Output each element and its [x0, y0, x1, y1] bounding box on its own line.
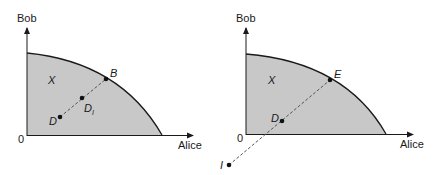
origin-label: 0	[18, 133, 24, 145]
region-label: X	[267, 74, 276, 86]
point-E	[328, 78, 333, 83]
region-label: X	[47, 74, 56, 86]
feasible-region	[27, 53, 162, 135]
label-E: E	[334, 68, 342, 80]
y-axis-label: Bob	[236, 12, 256, 24]
label-B: B	[110, 67, 117, 79]
feasible-region	[246, 54, 386, 134]
x-axis-label: Alice	[178, 139, 202, 151]
left-panel: Bob Alice 0 X B DI D	[17, 12, 202, 151]
point-D1	[80, 96, 85, 101]
point-B	[104, 77, 109, 82]
origin-label: 0	[237, 132, 243, 144]
x-axis-label: Alice	[400, 138, 424, 150]
point-D	[280, 119, 285, 124]
y-axis-label: Bob	[17, 12, 37, 24]
label-D: D	[49, 115, 57, 127]
point-D	[58, 115, 63, 120]
right-panel: Bob Alice 0 X E D I	[220, 12, 424, 171]
bargaining-diagrams: Bob Alice 0 X B DI D Bob Alice 0 X E D I	[0, 0, 439, 175]
label-D: D	[271, 112, 279, 124]
label-I: I	[220, 159, 223, 171]
point-I	[227, 163, 232, 168]
